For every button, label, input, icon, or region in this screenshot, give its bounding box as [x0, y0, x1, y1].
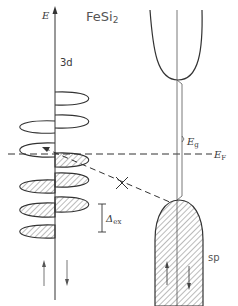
compound-title: FeSi2 — [86, 10, 118, 25]
spin-up-arrow-icon — [42, 260, 46, 267]
title-text: FeSi — [86, 9, 113, 24]
label-sp: sp — [208, 253, 220, 263]
gap-label: Eg — [187, 137, 199, 149]
d-states-spin-up — [20, 121, 55, 238]
exchange-splitting-marker — [98, 204, 106, 232]
fermi-label: EF — [214, 150, 226, 162]
label-3d: 3d — [60, 58, 73, 68]
d-states-spin-down — [55, 92, 89, 212]
gap-label-subscript: g — [194, 141, 198, 149]
spin-down-arrow-icon — [65, 279, 69, 286]
energy-axis-label: E — [42, 11, 49, 21]
axis-arrow-icon — [53, 6, 58, 14]
exchange-label: Δex — [106, 214, 121, 226]
conduction-band — [150, 10, 202, 80]
valence-sp-band — [155, 200, 203, 306]
title-subscript: 2 — [113, 15, 119, 25]
transition-arrow-icon — [42, 147, 50, 152]
fesi2-band-diagram — [0, 0, 238, 306]
fermi-label-subscript: F — [221, 154, 226, 162]
exchange-label-subscript: ex — [113, 218, 121, 226]
